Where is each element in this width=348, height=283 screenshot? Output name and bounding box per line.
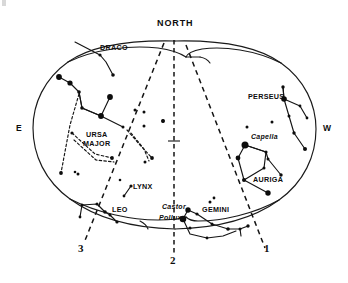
field-star xyxy=(143,111,146,114)
lynx-line xyxy=(124,186,131,196)
reference-line-label-1: 1 xyxy=(264,243,270,254)
ursa-major-star xyxy=(77,90,81,94)
constellation-label-gemini: GEMINI xyxy=(202,206,229,213)
gemini-star xyxy=(189,227,192,230)
ursa-major-star xyxy=(122,126,125,129)
gemini-star xyxy=(195,212,198,215)
star-label-pollux: Pollux xyxy=(159,214,182,221)
auriga-star xyxy=(267,158,270,161)
perseus-star xyxy=(281,85,284,88)
perseus-star xyxy=(288,115,291,118)
ursa-major-star xyxy=(110,156,114,160)
perseus-line-main xyxy=(283,87,305,149)
perseus-star xyxy=(306,117,309,120)
perseus-line-branch xyxy=(284,99,307,118)
gemini-star xyxy=(226,227,230,231)
ursa-major-star xyxy=(59,171,63,175)
star-chart-figure: NORTH E W DRACO URSA MAJOR LYNX LEO GEMI… xyxy=(0,0,348,283)
ursa-major-star xyxy=(143,125,146,128)
ursa-major-star-bright xyxy=(56,74,62,80)
star-capella xyxy=(242,142,249,149)
field-star xyxy=(119,179,122,182)
perseus-star xyxy=(303,147,307,151)
horizon-south-notch xyxy=(140,221,148,229)
constellation-lynx xyxy=(123,184,133,197)
leo-star xyxy=(115,220,118,223)
horizon-north-notch-tail xyxy=(200,57,210,63)
cardinal-label-west: W xyxy=(323,124,331,133)
ursa-major-star-bright xyxy=(98,113,104,119)
leo-star xyxy=(79,216,82,219)
horizon-lower-right-lobe xyxy=(186,200,279,221)
auriga-star xyxy=(246,126,249,129)
ursa-major-star xyxy=(144,161,147,164)
sky-map-svg xyxy=(0,0,348,283)
reference-line-1[interactable] xyxy=(186,45,265,248)
constellation-label-lynx: LYNX xyxy=(133,183,153,190)
star-castor xyxy=(185,207,190,212)
lynx-star xyxy=(123,195,126,198)
ursa-major-dashed-leg-1 xyxy=(61,94,79,173)
field-star xyxy=(213,197,216,200)
cardinal-label-north: NORTH xyxy=(157,19,194,28)
constellation-label-leo: LEO xyxy=(112,206,128,213)
ursa-major-dipper-line xyxy=(59,77,110,116)
constellation-ursa-major xyxy=(56,74,165,175)
ursa-major-star-bright xyxy=(107,94,113,100)
ursa-major-star xyxy=(70,131,73,134)
cardinal-label-east: E xyxy=(16,124,22,133)
ursa-major-star xyxy=(134,109,137,112)
field-star xyxy=(74,171,77,174)
constellation-label-ursa-major: URSA MAJOR xyxy=(83,131,110,148)
leo-star xyxy=(103,210,107,214)
ursa-major-label-line2: MAJOR xyxy=(83,140,110,149)
ursa-major-star xyxy=(80,106,84,110)
perseus-star xyxy=(292,131,295,134)
auriga-star xyxy=(236,156,241,161)
constellation-label-draco: DRACO xyxy=(100,44,128,51)
draco-star xyxy=(98,53,101,56)
reference-line-label-2: 2 xyxy=(170,255,176,266)
auriga-kids-line xyxy=(266,152,281,175)
star-label-castor: Castor xyxy=(162,203,186,210)
leo-star xyxy=(96,203,99,206)
star-label-capella: Capella xyxy=(251,133,278,140)
constellation-label-auriga: AURIGA xyxy=(253,176,283,183)
gemini-star xyxy=(206,237,209,240)
auriga-star xyxy=(242,178,246,182)
constellation-label-perseus: PERSEUS xyxy=(248,93,284,100)
draco-star xyxy=(111,73,115,77)
gemini-star xyxy=(209,201,212,204)
horizon-upper-right-lobe xyxy=(186,48,281,63)
leo-star xyxy=(81,204,84,207)
perseus-star xyxy=(299,105,302,108)
ursa-major-star xyxy=(77,173,80,176)
auriga-star xyxy=(263,167,266,170)
field-star xyxy=(161,119,164,122)
ursa-major-dashed-leg-5 xyxy=(131,133,149,161)
auriga-star xyxy=(264,150,267,153)
reference-line-label-3: 3 xyxy=(78,243,84,254)
perseus-star xyxy=(271,121,274,124)
ursa-major-star xyxy=(150,156,154,160)
gemini-star xyxy=(211,223,214,226)
auriga-star-bright xyxy=(265,190,270,195)
gemini-star xyxy=(239,228,242,231)
gemini-star xyxy=(246,224,249,227)
ursa-major-star-bright xyxy=(67,80,72,85)
